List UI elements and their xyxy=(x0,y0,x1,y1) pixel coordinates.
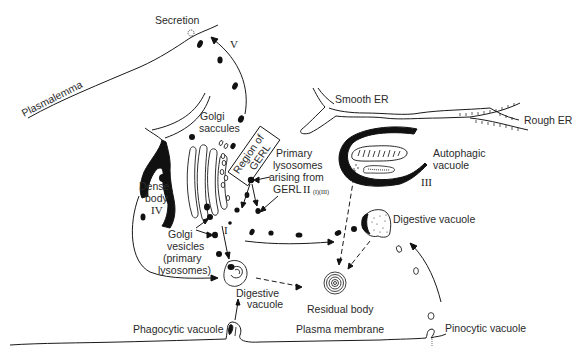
arrowhead xyxy=(328,239,334,245)
dashed-arrow-autophagic-to-residual xyxy=(340,170,355,262)
golgi-small-vesicles xyxy=(218,140,229,201)
lysosome-granule xyxy=(268,230,273,235)
dense-body-granule xyxy=(141,214,146,221)
primary-lysosome xyxy=(234,207,239,212)
digestive-vacuole-left xyxy=(224,260,247,286)
golgi-granule xyxy=(229,142,236,150)
golgi-vesicle xyxy=(216,251,222,257)
numeral-iii: III xyxy=(421,176,432,188)
label-golgi-vesicles-2: vesicles xyxy=(167,240,204,252)
phagocytic-fiber xyxy=(235,327,236,336)
label-autophagic-1: Autophagic xyxy=(433,147,486,159)
pinocytic-vesicles xyxy=(396,245,434,319)
label-primary-4: GERL xyxy=(273,183,302,195)
label-plasmalemma: Plasmalemma xyxy=(19,78,84,119)
secretion-vesicle xyxy=(188,30,194,36)
er-channel-left xyxy=(152,93,205,130)
dashed-arrow-to-residual xyxy=(256,278,298,286)
arrowhead xyxy=(337,259,342,265)
arrowhead xyxy=(296,284,302,290)
arrowhead xyxy=(203,218,209,224)
label-plasma-membrane: Plasma membrane xyxy=(296,323,384,335)
label-secretion: Secretion xyxy=(155,14,200,26)
golgi-granule xyxy=(189,134,195,140)
golgi-granule xyxy=(204,204,210,211)
lysosome-pathway-diagram: Plasmalemma Secretion V Dense body IV G xyxy=(0,0,586,360)
arrowhead xyxy=(207,232,213,238)
arrowhead xyxy=(211,275,218,281)
numeral-v: V xyxy=(230,38,238,50)
secretory-granule xyxy=(217,56,222,63)
label-rough-er: Rough ER xyxy=(524,114,573,126)
label-smooth-er: Smooth ER xyxy=(335,93,389,105)
arrowhead xyxy=(254,177,259,183)
arrow-to-digestive-right xyxy=(245,241,330,244)
autophagic-particles xyxy=(353,164,358,169)
arrowhead xyxy=(253,200,258,206)
label-digestive-left-2: vacuole xyxy=(247,298,283,310)
label-autophagic-2: vacuole xyxy=(433,159,469,171)
phagocytic-particle xyxy=(229,325,233,335)
rough-er-lower xyxy=(470,118,528,130)
numeral-iv: IV xyxy=(151,204,163,216)
label-golgi-vesicles-3: (primary xyxy=(163,252,202,264)
primary-lysosome xyxy=(255,208,260,214)
lysosome-granule xyxy=(248,228,255,236)
rough-er-mid xyxy=(490,108,519,120)
label-digestive-right: Digestive vacuole xyxy=(393,213,475,225)
residual-body xyxy=(324,272,346,294)
label-golgi-saccules-1: Golgi xyxy=(200,110,225,122)
digestive-vacuole-right xyxy=(362,210,391,238)
label-golgi-vesicles-1: Golgi xyxy=(168,228,193,240)
secretory-granule xyxy=(196,39,204,48)
plasmalemma-membrane xyxy=(28,25,218,118)
label-phagocytic-vacuole: Phagocytic vacuole xyxy=(133,323,224,335)
label-dense-2: body xyxy=(145,192,169,204)
label-dense-1: Dense xyxy=(139,180,170,192)
lysosome-granule xyxy=(351,226,357,232)
numeral-i: I xyxy=(224,224,228,236)
label-primary-3: arising from xyxy=(269,171,324,183)
mitochondrion xyxy=(352,146,407,161)
er-fragment-in-vacuole xyxy=(363,166,394,174)
lysosome-granule xyxy=(334,229,342,237)
primary-lysosome xyxy=(228,221,232,225)
numeral-ii-subscript: (I)(III) xyxy=(313,189,329,196)
secretory-granule xyxy=(231,81,239,90)
dashed-arrow-right-to-residual xyxy=(350,241,370,266)
label-primary-2: lysosomes xyxy=(273,159,323,171)
arrowhead xyxy=(241,202,246,208)
label-golgi-vesicles-4: lysosomes) xyxy=(158,264,211,276)
arrowhead xyxy=(236,299,240,305)
arrow-pathway-v xyxy=(214,40,246,114)
label-golgi-saccules-2: saccules xyxy=(199,122,240,134)
arrowhead xyxy=(225,252,230,259)
label-residual-body: Residual body xyxy=(307,303,374,315)
label-pinocytic-vacuole: Pinocytic vacuole xyxy=(445,322,526,334)
lysosome-granule xyxy=(296,232,303,237)
rough-er-upper xyxy=(470,103,520,117)
numeral-ii: II xyxy=(303,183,311,195)
label-primary-1: Primary xyxy=(276,147,313,159)
